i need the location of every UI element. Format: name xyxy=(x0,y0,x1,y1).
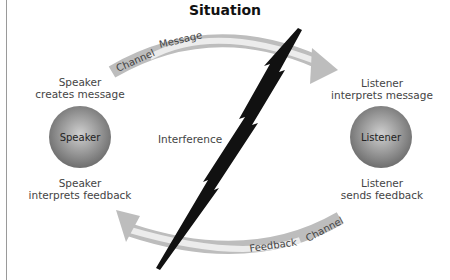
listener-top-caption-line1: Listener xyxy=(326,77,438,89)
speaker-top-caption-line2: creates message xyxy=(30,88,130,100)
feedback-content-label: Feedback xyxy=(249,236,298,254)
speaker-top-caption-line1: Speaker xyxy=(30,76,130,88)
message-arrow: Channel Message xyxy=(112,29,338,84)
speaker-bottom-caption: Speaker interprets feedback xyxy=(25,177,135,201)
communication-diagram: Channel Message Feedback Channel Speaker… xyxy=(0,0,450,280)
speaker-node-label: Speaker xyxy=(60,132,102,143)
listener-bottom-caption: Listener sends feedback xyxy=(330,177,434,201)
speaker-top-caption: Speaker creates message xyxy=(30,76,130,100)
speaker-bottom-caption-line2: interprets feedback xyxy=(25,189,135,201)
interference-label: Interference xyxy=(155,133,225,145)
listener-node: Listener xyxy=(350,106,412,168)
feedback-arrow: Feedback Channel xyxy=(116,210,345,254)
lightning-bolt-icon xyxy=(156,28,302,270)
listener-node-label: Listener xyxy=(361,132,402,143)
listener-bottom-caption-line2: sends feedback xyxy=(330,189,434,201)
listener-bottom-caption-line1: Listener xyxy=(330,177,434,189)
speaker-bottom-caption-line1: Speaker xyxy=(25,177,135,189)
listener-top-caption: Listener interprets message xyxy=(326,77,438,101)
listener-top-caption-line2: interprets message xyxy=(326,89,438,101)
speaker-node: Speaker xyxy=(49,106,111,168)
